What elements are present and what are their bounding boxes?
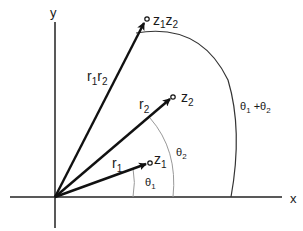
vector-z1z2 — [55, 23, 144, 197]
label-theta1-plus-theta2: θ1 +θ2 — [240, 100, 271, 115]
label-z1z2: z1z2 — [153, 12, 179, 30]
point-z2 — [171, 95, 175, 99]
label-r2: r2 — [139, 96, 150, 115]
label-r1r2: r1r2 — [87, 68, 108, 87]
label-theta1: θ1 — [145, 176, 156, 191]
label-z2: z2 — [181, 89, 194, 108]
point-z1 — [148, 161, 152, 165]
y-axis-label: y — [50, 5, 57, 20]
theta1-arc — [133, 168, 134, 197]
label-z1: z1 — [154, 151, 167, 170]
label-theta2: θ2 — [176, 146, 187, 161]
x-axis-label: x — [290, 191, 297, 206]
label-r1: r1 — [112, 155, 123, 174]
complex-multiplication-diagram: x y z1z2 z2 z1 r1r2 r2 r1 θ1 θ2 θ1 +θ2 — [0, 0, 303, 231]
point-z1z2 — [145, 17, 149, 21]
